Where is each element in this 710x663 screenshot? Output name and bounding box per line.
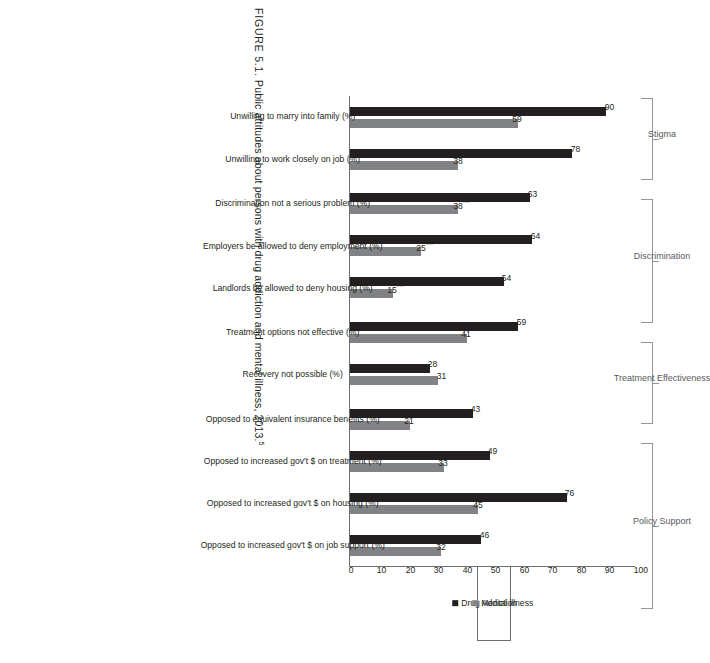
bar-drug: 90 [350,107,607,116]
bracket-discrimination: Discrimination [641,199,653,323]
bar-pair: 7838*** [350,138,635,180]
bracket-tick [652,139,659,140]
bracket-tick [652,261,659,262]
significance-stars: *** [471,327,478,334]
category-label: Employers be allowed to deny employment … [203,241,383,250]
bar-value-label: 49 [488,447,497,456]
bracket-treatment-effectiveness: Treatment Effectiveness [641,342,653,424]
bar-drug: 59 [350,322,518,331]
bar-drug: 76 [350,493,567,502]
bar-mi: 38*** [350,161,458,170]
bar-mi: 41*** [350,334,467,343]
bracket-tick [652,526,659,527]
bar-value-label: 38*** [453,154,470,165]
significance-stars: *** [482,498,489,505]
bar-value-label: 78 [571,145,580,154]
bracket-label: Policy Support [633,517,691,526]
value-tick-label: 40 [462,566,472,575]
significance-stars: *** [397,282,404,289]
bar-drug: 28 [350,364,430,373]
chart-legend: Drug AddictionMental illness [477,566,511,641]
bar-value-label: 59 [516,318,525,327]
bar-value-label: 63 [528,189,537,198]
bar-pair: 4632*** [350,524,635,566]
value-tick-label: 0 [348,566,353,575]
bar-value-label: 15*** [387,282,404,293]
bracket-stigma: Stigma [641,98,653,180]
bar-value-label: 46 [479,531,488,540]
figure-caption: FIGURE 5.1. Public attitudes about perso… [252,0,265,663]
chart-plot-area: 9059***7838***6338***6425***5415***5941*… [349,96,635,566]
legend-swatch-drug [453,600,459,606]
category-label: Opposed to increased gov't $ on treatmen… [204,457,382,466]
value-tick-label: 20 [405,566,415,575]
bar-value-label: 54 [502,273,511,282]
category-label: Landlords be allowed to deny housing (%) [213,283,373,292]
bar-value-label: 32*** [436,540,453,551]
value-tick-label: 10 [377,566,387,575]
bar-group: 6338***6425***5415*** [350,183,635,309]
value-tick-label: 30 [434,566,444,575]
bar-value-label: 43 [471,405,480,414]
bar-value-label: 33*** [439,456,456,467]
figure-caption-text: Public attitudes about persons with drug… [253,80,265,442]
legend-item-mi: Mental illness [472,599,533,608]
bar-value-label: 21*** [404,414,421,425]
bracket-policy-support: Policy Support [641,443,653,609]
bar-drug: 54 [350,277,504,286]
bar-mi: 59*** [350,119,518,128]
significance-stars: *** [462,198,469,205]
bar-group: 9059***7838*** [350,96,635,180]
value-tick-label: 100 [633,566,647,575]
bar-pair: 5941*** [350,311,635,353]
figure-rotated-canvas: StigmaDiscriminationTreatment Effectiven… [234,0,663,663]
significance-stars: *** [522,112,529,119]
bracket-tick [652,383,659,384]
bracket-label: Discrimination [634,252,691,261]
significance-stars: *** [445,540,452,547]
bar-group: 4321***4933***7645***4632*** [350,398,635,566]
bar-value-label: 64 [531,231,540,240]
category-label: Treatment options not effective (%) [226,328,359,337]
value-tick-label: 80 [576,566,586,575]
bar-groups: 9059***7838***6338***6425***5415***5941*… [350,96,635,566]
category-label: Opposed to increased gov't $ on housing … [207,499,379,508]
bar-mi: 31 [350,376,438,385]
bar-pair: 6338*** [350,183,635,225]
bar-pair: 9059*** [350,96,635,138]
bar-drug: 63 [350,193,530,202]
bar-pair: 4933*** [350,440,635,482]
category-label: Discrimination not a serious problem (%) [215,199,370,208]
bar-pair: 5415*** [350,267,635,309]
figure-number: FIGURE 5.1. [253,8,265,77]
category-label: Opposed to increased gov't $ on job supp… [201,541,385,550]
value-tick-label: 90 [605,566,615,575]
significance-stars: *** [414,414,421,421]
significance-stars: *** [462,154,469,161]
bar-value-label: 38*** [453,198,470,209]
bar-value-label: 31 [437,372,446,381]
bar-value-label: 90 [605,103,614,112]
caption-footnote-marker: 5 [258,442,265,446]
legend-label: Mental illness [481,599,533,608]
bar-pair: 7645*** [350,482,635,524]
value-tick-label: 70 [548,566,558,575]
legend-swatch-mi [472,600,478,606]
bar-pair: 2831 [350,353,635,395]
category-label: Unwilling to marry into family (%) [230,113,355,122]
bar-value-label: 25*** [416,240,433,251]
bracket-label: Stigma [648,130,676,139]
figure-5-1: StigmaDiscriminationTreatment Effectiven… [234,0,663,663]
category-label: Unwilling to work closely on job (%) [225,155,360,164]
bar-value-label: 28 [428,360,437,369]
bar-value-label: 45*** [473,498,490,509]
bar-value-label: 59*** [513,112,530,123]
bar-group: 5941***2831 [350,311,635,395]
bar-value-label: 41*** [461,327,478,338]
bar-pair: 4321*** [350,398,635,440]
value-tick-label: 60 [519,566,529,575]
significance-stars: *** [448,456,455,463]
bar-value-label: 76 [565,489,574,498]
category-label: Opposed to equivalent insurance benefits… [206,415,380,424]
bar-pair: 6425*** [350,225,635,267]
